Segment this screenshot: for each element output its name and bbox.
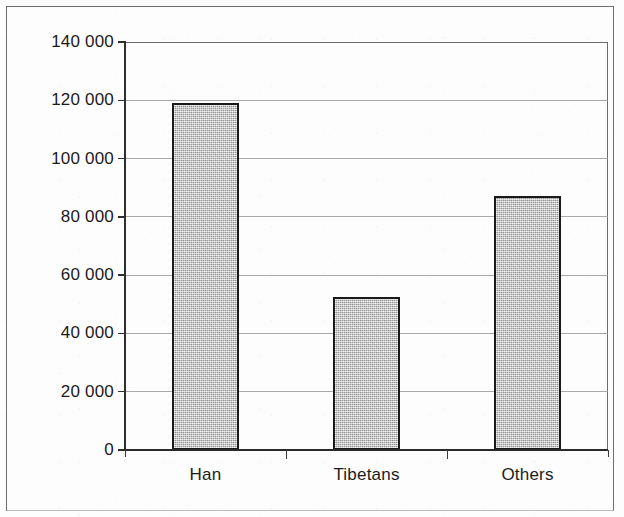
x-axis-tick [125,450,126,457]
x-axis-label-tibetans: Tibetans [286,466,447,483]
y-axis-tick-label: 140 000 [0,33,114,50]
bar-han [172,103,240,450]
x-axis-tick [608,450,609,457]
x-axis-tick [447,450,448,459]
x-axis-tick [286,450,287,459]
y-axis-tick-label: 80 000 [0,208,114,225]
y-axis-tick-label: 60 000 [0,266,114,283]
y-axis-tick-label: 120 000 [0,91,114,108]
x-axis-label-others: Others [447,466,608,483]
bar-others [494,196,562,450]
x-axis-label-han: Han [125,466,286,483]
chart-page: 020 00040 00060 00080 000100 000120 0001… [0,0,624,517]
y-axis-tick-label: 40 000 [0,324,114,341]
y-axis-tick-label: 100 000 [0,150,114,167]
bar-tibetans [333,297,401,450]
x-axis-line [124,449,608,451]
plot-area [125,42,608,450]
y-axis-tick-label: 0 [0,441,114,458]
y-axis-tick-label: 20 000 [0,383,114,400]
